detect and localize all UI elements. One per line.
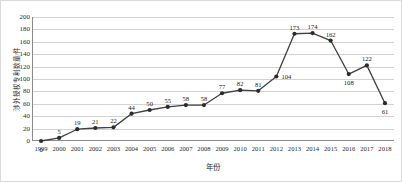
data-point-marker bbox=[111, 125, 115, 129]
data-point-marker bbox=[39, 139, 43, 143]
y-axis-tick: 40 bbox=[4, 113, 30, 120]
x-axis-tick: 2018 bbox=[373, 144, 397, 153]
y-axis-tick: 20 bbox=[4, 125, 30, 132]
data-label: 50 bbox=[146, 100, 153, 107]
y-axis-tick: 180 bbox=[4, 26, 30, 33]
y-axis-tick: 200 bbox=[4, 14, 30, 21]
data-label: 5 bbox=[57, 127, 60, 134]
y-axis-tick: 100 bbox=[4, 76, 30, 83]
data-label: 174 bbox=[308, 23, 318, 30]
y-axis-tick: 120 bbox=[4, 63, 30, 70]
x-axis-tick-labels: 1999200020012002200320042005200620072008… bbox=[32, 144, 394, 156]
data-label: 21 bbox=[92, 117, 99, 124]
data-label: 58 bbox=[201, 95, 208, 102]
data-point-marker bbox=[75, 127, 79, 131]
y-axis-tick-labels: 020406080100120140160180200 bbox=[1, 17, 30, 141]
data-label: 61 bbox=[382, 108, 389, 115]
data-point-marker bbox=[329, 38, 333, 42]
y-axis-tick: 160 bbox=[4, 38, 30, 45]
data-point-marker bbox=[238, 88, 242, 92]
data-point-marker bbox=[148, 108, 152, 112]
chart-container: 涉外授权专利数量/件 020406080100120140160180200 0… bbox=[0, 0, 402, 182]
data-label: 108 bbox=[344, 79, 354, 86]
data-label: 81 bbox=[255, 80, 262, 87]
data-label: 162 bbox=[326, 30, 336, 37]
plot-area: 0519212244505558587782811041731741621081… bbox=[32, 17, 394, 141]
data-point-marker bbox=[129, 112, 133, 116]
data-label: 122 bbox=[362, 55, 372, 62]
y-axis-tick: 0 bbox=[4, 138, 30, 145]
data-label: 173 bbox=[289, 23, 299, 30]
data-label: 104 bbox=[281, 72, 291, 79]
data-point-marker bbox=[256, 89, 260, 93]
y-axis-tick: 80 bbox=[4, 88, 30, 95]
y-axis-tick: 140 bbox=[4, 51, 30, 58]
line-series bbox=[32, 17, 394, 141]
data-label: 77 bbox=[219, 83, 226, 90]
data-point-marker bbox=[383, 101, 387, 105]
data-label: 58 bbox=[183, 95, 190, 102]
data-label: 19 bbox=[74, 119, 81, 126]
data-label: 22 bbox=[110, 117, 117, 124]
data-point-marker bbox=[57, 136, 61, 140]
data-point-marker bbox=[93, 126, 97, 130]
data-point-marker bbox=[365, 63, 369, 67]
data-point-marker bbox=[274, 74, 278, 78]
data-label: 44 bbox=[128, 103, 135, 110]
data-point-marker bbox=[220, 91, 224, 95]
series-line bbox=[41, 33, 385, 141]
y-axis-tick: 60 bbox=[4, 100, 30, 107]
data-point-marker bbox=[347, 72, 351, 76]
data-label: 82 bbox=[237, 80, 244, 87]
data-point-marker bbox=[202, 103, 206, 107]
data-label: 55 bbox=[164, 96, 171, 103]
data-point-marker bbox=[166, 105, 170, 109]
data-point-marker bbox=[184, 103, 188, 107]
data-point-marker bbox=[292, 32, 296, 36]
data-point-marker bbox=[310, 31, 314, 35]
x-axis-title: 年份 bbox=[32, 161, 394, 172]
